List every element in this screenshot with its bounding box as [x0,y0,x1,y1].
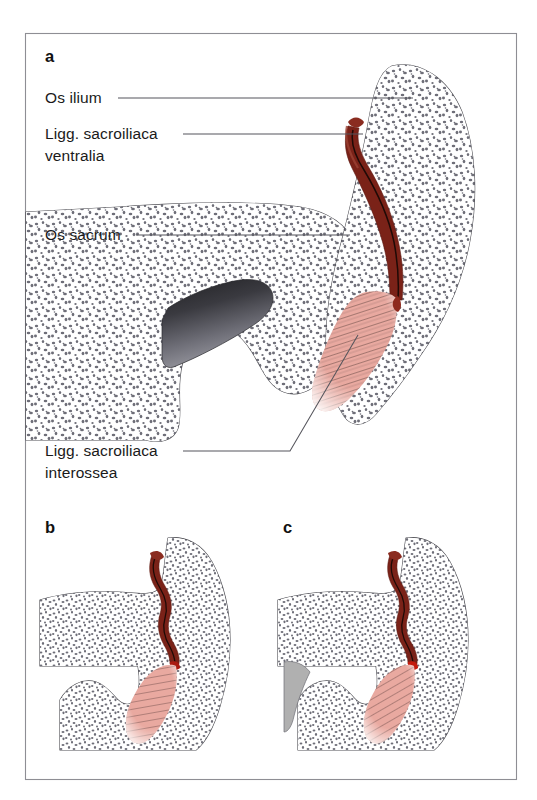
ligg-sacroiliaca-ventralia-label-line1: Ligg. sacroiliaca [45,125,158,142]
panel-a [20,58,488,451]
anatomy-figure-svg: a b c Os ilium Ligg. sacroiliaca ventral… [0,0,537,800]
ligg-sacroiliaca-ventralia-label-line2: ventralia [45,147,105,164]
ligg-sacroiliaca-interossea-label-line1: Ligg. sacroiliaca [45,442,158,459]
panel-letter-b: b [45,518,55,536]
ventral-ligament-superior-attachment [348,118,364,128]
os-ilium-label: Os ilium [45,89,102,106]
panel-letter-a: a [45,47,55,65]
os-sacrum-label: Os sacrum [45,226,121,243]
panel-c [272,530,476,756]
panel-b [34,530,238,756]
ligg-sacroiliaca-interossea-label-line2: interossea [45,464,118,481]
anatomy-figure-root: a b c Os ilium Ligg. sacroiliaca ventral… [0,0,537,800]
panel-letter-c: c [283,518,292,536]
